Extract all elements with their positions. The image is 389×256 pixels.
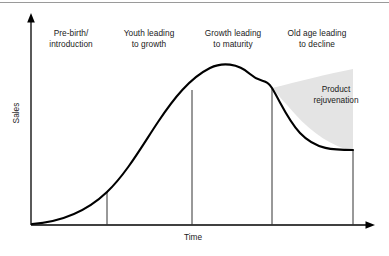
x-axis-arrowhead bbox=[366, 221, 376, 229]
phase-label-pre-birth: Pre-birth/ introduction bbox=[38, 28, 104, 50]
phase-label-youth: Youth leading to growth bbox=[108, 28, 190, 50]
y-axis-arrowhead bbox=[27, 13, 35, 23]
product-rejuvenation-label: Product rejuvenation bbox=[296, 84, 376, 106]
product-life-cycle-figure: Pre-birth/ introduction Youth leading to… bbox=[0, 0, 389, 256]
phase-label-old-age: Old age leading to decline bbox=[275, 28, 359, 50]
phase-label-growth: Growth leading to maturity bbox=[192, 28, 274, 50]
y-axis-label: Sales bbox=[11, 90, 21, 136]
x-axis-label: Time bbox=[158, 232, 228, 242]
